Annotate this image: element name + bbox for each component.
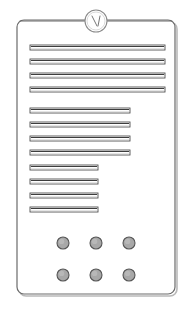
speaker-grille-group-2-slot-2 <box>30 122 130 127</box>
call-button-highlight <box>92 239 97 244</box>
speaker-grille-group-3-slot-2 <box>30 179 98 184</box>
call-button-3[interactable] <box>123 237 135 249</box>
call-button-highlight <box>59 271 64 276</box>
speaker-grille-group-1-slot-2 <box>30 59 165 64</box>
call-button-2[interactable] <box>90 237 102 249</box>
call-button-highlight <box>92 271 97 276</box>
call-button-5[interactable] <box>90 269 102 281</box>
camera-lens-outer-ring <box>85 10 107 32</box>
call-button-highlight <box>59 239 64 244</box>
speaker-grille-group-1-slot-3 <box>30 73 165 78</box>
speaker-grille-group-2-slot-1 <box>30 108 130 113</box>
speaker-grille-group-3-slot-3 <box>30 193 98 198</box>
intercom-illustration <box>0 0 193 310</box>
call-button-highlight <box>125 239 130 244</box>
intercom-panel-drawing <box>0 0 193 310</box>
call-button-highlight <box>125 271 130 276</box>
speaker-grille-group-2-slot-4 <box>30 150 130 155</box>
speaker-grille-group-1-slot-4 <box>30 87 165 92</box>
call-button-6[interactable] <box>123 269 135 281</box>
call-button-4[interactable] <box>57 269 69 281</box>
call-button-1[interactable] <box>57 237 69 249</box>
camera-lens[interactable] <box>85 10 107 32</box>
speaker-grille-group-1-slot-1 <box>30 45 165 50</box>
speaker-grille-group-3-slot-4 <box>30 207 98 212</box>
speaker-grille-group-2-slot-3 <box>30 136 130 141</box>
speaker-grille-group-3-slot-1 <box>30 165 98 170</box>
